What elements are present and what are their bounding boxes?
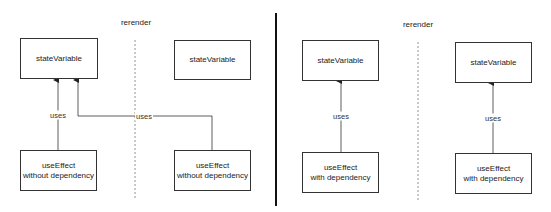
state-variable-box: stateVariable [302, 40, 379, 81]
rerender-label-right: rerender [403, 20, 433, 29]
use-effect-label: useEffect [477, 164, 510, 174]
state-variable-label: stateVariable [317, 56, 363, 66]
use-effect-label: useEffect [42, 161, 75, 171]
state-variable-label: stateVariable [36, 54, 82, 64]
use-effect-box: useEffect without dependency [20, 150, 97, 191]
edge-label-uses: uses [135, 112, 153, 121]
use-effect-dependency-label: without dependency [177, 171, 248, 181]
edge-label-uses: uses [49, 111, 67, 120]
rerender-label-left: rerender [121, 18, 151, 27]
use-effect-label: useEffect [324, 163, 357, 173]
use-effect-dependency-label: without dependency [23, 171, 94, 181]
use-effect-dependency-label: with dependency [463, 174, 523, 184]
state-variable-label: stateVariable [189, 55, 235, 65]
state-variable-box: stateVariable [174, 40, 251, 80]
use-effect-label: useEffect [196, 161, 229, 171]
state-variable-box: stateVariable [455, 42, 532, 83]
use-effect-box: useEffect without dependency [174, 150, 251, 191]
use-effect-dependency-label: with dependency [310, 173, 370, 183]
state-variable-label: stateVariable [470, 58, 516, 68]
edge-label-uses: uses [484, 114, 502, 123]
use-effect-box: useEffect with dependency [455, 153, 532, 194]
use-effect-box: useEffect with dependency [302, 152, 379, 193]
state-variable-box: stateVariable [20, 38, 98, 79]
edge-label-uses: uses [332, 112, 350, 121]
